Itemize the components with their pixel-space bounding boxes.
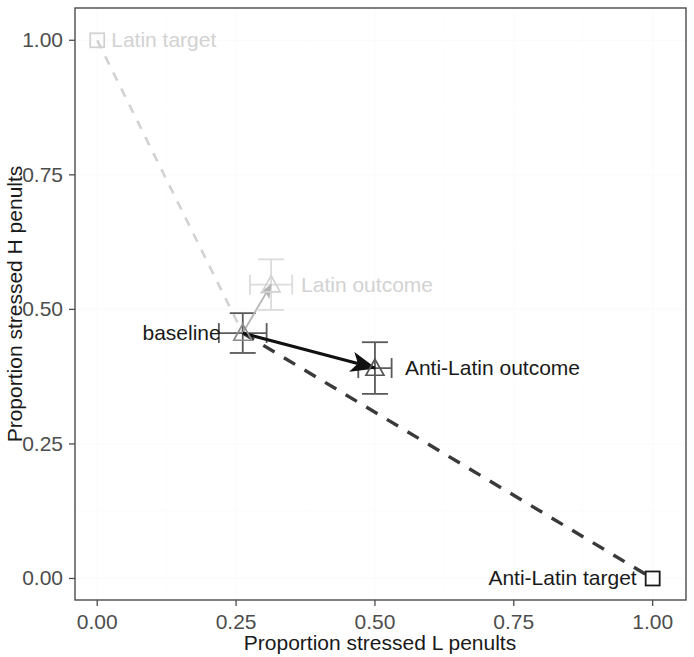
x-axis-title: Proportion stressed L penults — [244, 631, 516, 654]
y-tick-label: 0.50 — [22, 297, 63, 320]
chart-container: Latin targetAnti-Latin targetbaselineLat… — [0, 0, 694, 657]
x-tick-label: 0.50 — [355, 610, 396, 633]
label-latin-outcome: Latin outcome — [301, 273, 433, 296]
y-axis-title: Proportion stressed H penults — [3, 166, 26, 443]
label-latin-target: Latin target — [111, 28, 216, 51]
x-tick-label: 0.75 — [493, 610, 534, 633]
x-tick-label: 1.00 — [632, 610, 673, 633]
label-anti-latin-outcome: Anti-Latin outcome — [405, 356, 580, 379]
y-tick-label: 1.00 — [22, 28, 63, 51]
y-tick-label: 0.75 — [22, 163, 63, 186]
x-tick-label: 0.00 — [77, 610, 118, 633]
scatter-plot: Latin targetAnti-Latin targetbaselineLat… — [0, 0, 694, 657]
y-tick-label: 0.25 — [22, 432, 63, 455]
x-tick-label: 0.25 — [216, 610, 257, 633]
label-baseline: baseline — [143, 321, 221, 344]
y-tick-label: 0.00 — [22, 566, 63, 589]
label-anti-latin-target: Anti-Latin target — [488, 566, 636, 589]
